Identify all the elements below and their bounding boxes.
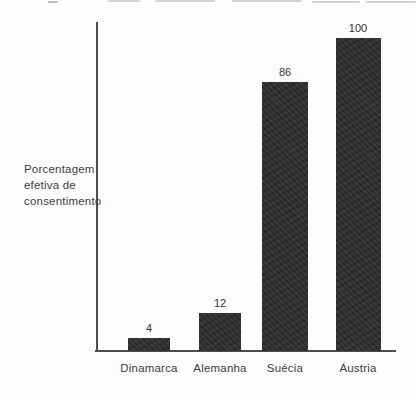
x-axis-tick-label: Suécia	[267, 362, 303, 374]
x-axis-tick-label: Áustria	[339, 362, 376, 374]
bar-value-label: 12	[214, 297, 226, 309]
y-axis-title-line3: consentimento	[24, 193, 101, 209]
bar-dinamarca	[128, 338, 170, 351]
scanned-chart-page: Porcentagem efetiva de consentimento 4Di…	[0, 0, 417, 396]
y-axis-title: Porcentagem efetiva de consentimento	[24, 161, 101, 209]
bar-suecia	[262, 82, 308, 351]
x-axis-tick-label: Dinamarca	[120, 362, 177, 374]
bar-value-label: 86	[279, 66, 291, 78]
x-axis-tick-label: Alemanha	[193, 362, 246, 374]
bar-alemanha	[199, 313, 241, 351]
y-axis-line	[96, 22, 98, 352]
bar-chart: Porcentagem efetiva de consentimento 4Di…	[0, 0, 417, 396]
bar-value-label: 100	[349, 22, 367, 34]
bar-austria	[336, 38, 381, 351]
y-axis-title-line2: efetiva de	[24, 177, 101, 193]
bar-value-label: 4	[146, 322, 152, 334]
y-axis-title-line1: Porcentagem	[24, 161, 101, 177]
